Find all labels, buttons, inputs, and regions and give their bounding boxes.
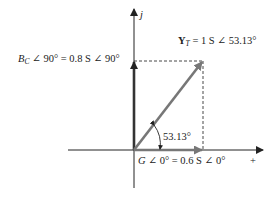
phasor-diagram: j + BC ∠ 90° = 0.8 S ∠ 90° YT = 1 S ∠ 53… xyxy=(0,0,275,198)
angle-arc xyxy=(154,125,160,149)
bc-value: ∠ 90° = 0.8 S ∠ 90° xyxy=(29,53,119,64)
angle-label: 53.13° xyxy=(163,131,191,142)
g-label: G ∠ 0° = 0.6 S ∠ 0° xyxy=(138,155,225,166)
real-axis-label: + xyxy=(250,155,256,166)
yt-value: = 1 S ∠ 53.13° xyxy=(190,35,257,46)
yt-label: YT = 1 S ∠ 53.13° xyxy=(178,35,257,48)
bc-label: BC ∠ 90° = 0.8 S ∠ 90° xyxy=(18,53,120,66)
g-value: ∠ 0° = 0.6 S ∠ 0° xyxy=(146,155,226,166)
imag-axis-label: j xyxy=(138,9,143,20)
